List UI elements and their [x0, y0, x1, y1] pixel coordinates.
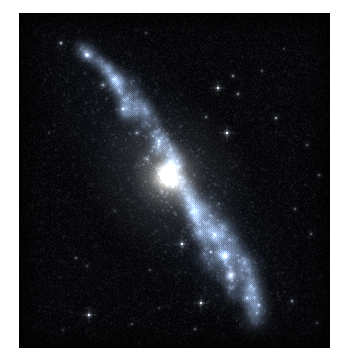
galaxy-photograph	[19, 13, 330, 348]
galaxy-canvas	[19, 13, 330, 348]
image-page	[0, 0, 337, 364]
